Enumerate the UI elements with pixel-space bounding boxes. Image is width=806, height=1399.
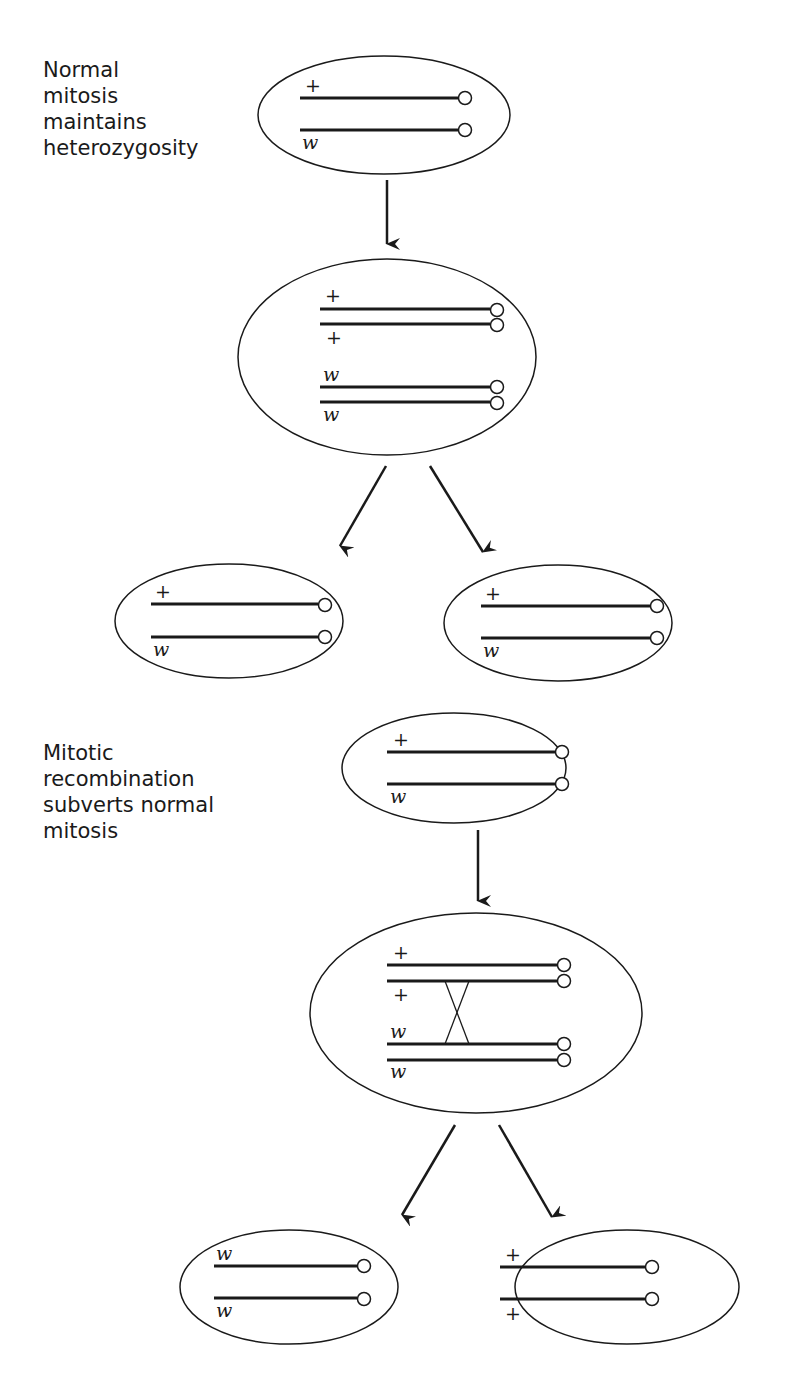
cell-recombination-replicated	[310, 913, 642, 1113]
cell-normal-daughter-right	[444, 565, 672, 681]
allele-label: +	[485, 582, 501, 604]
allele-label: w	[390, 785, 406, 807]
arrow-left-2	[402, 1125, 455, 1215]
allele-label: w	[216, 1242, 232, 1264]
allele-label: +	[305, 74, 321, 96]
allele-label: w	[216, 1299, 232, 1321]
allele-label: +	[155, 580, 171, 602]
allele-label: +	[393, 941, 409, 963]
crossover-x	[445, 981, 469, 1044]
cell-recombination-daughter-right	[500, 1230, 739, 1344]
allele-label: +	[393, 728, 409, 750]
cell-normal-daughter-left	[115, 564, 343, 678]
cell-recombination-daughter-left	[180, 1230, 398, 1344]
allele-label: +	[325, 284, 341, 306]
cell-normal-replicated	[238, 259, 536, 455]
allele-label: +	[505, 1243, 521, 1265]
cell-normal-parent	[258, 56, 510, 174]
allele-label: +	[505, 1302, 521, 1324]
allele-label: w	[390, 1060, 406, 1082]
allele-label: w	[483, 639, 499, 661]
allele-label: +	[393, 983, 409, 1005]
arrow-right-1	[430, 466, 483, 552]
allele-label: w	[323, 363, 339, 385]
arrow-left-1	[340, 466, 386, 546]
cell-recombination-parent	[342, 713, 569, 823]
allele-label: +	[326, 326, 342, 348]
arrow-right-2	[499, 1125, 552, 1217]
mitotic-recombination-diagram: + w + + w w + w + w + w + + w w w w + +	[0, 0, 806, 1399]
allele-label: w	[323, 403, 339, 425]
allele-label: w	[390, 1020, 406, 1042]
allele-label: w	[153, 638, 169, 660]
allele-label: w	[302, 131, 318, 153]
